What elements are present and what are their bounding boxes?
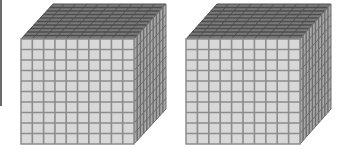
thousand-cube-1 <box>21 4 166 144</box>
thousand-cube-2 <box>186 4 331 144</box>
thousand-cubes-figure <box>0 0 344 155</box>
